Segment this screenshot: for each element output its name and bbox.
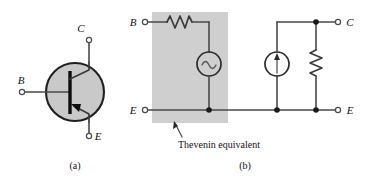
caption-b: (b) bbox=[239, 160, 251, 172]
shunt-resistor-zigzag bbox=[310, 50, 322, 76]
caption-a: (a) bbox=[69, 160, 80, 172]
node-dot-current-source-bottom bbox=[274, 107, 280, 113]
node-dot-source-bottom bbox=[206, 107, 212, 113]
panel-a-transistor-symbol: B C E (a) bbox=[18, 22, 104, 172]
current-source-arrowhead bbox=[274, 53, 280, 60]
thevenin-equivalent-annotation: Thevenin equivalent bbox=[178, 139, 260, 150]
node-dot-shunt-bottom bbox=[313, 107, 319, 113]
label-b-a: B bbox=[18, 74, 25, 86]
thevenin-shaded-region bbox=[152, 12, 228, 123]
annotation-leader-line bbox=[176, 125, 182, 137]
terminal-e-right-b[interactable] bbox=[335, 107, 340, 112]
label-e-left-b: E bbox=[129, 104, 137, 116]
terminal-e-left-b[interactable] bbox=[142, 107, 147, 112]
label-c-b: C bbox=[346, 16, 354, 28]
label-c-a: C bbox=[77, 22, 85, 34]
node-dot-collector bbox=[313, 19, 319, 25]
panel-b-equivalent-circuit: B E C E Thevenin equivalent (b) bbox=[129, 12, 355, 172]
terminal-b-a[interactable] bbox=[19, 89, 24, 94]
label-b-b: B bbox=[130, 16, 137, 28]
terminal-b-b[interactable] bbox=[142, 19, 147, 24]
label-e-a: E bbox=[94, 130, 102, 142]
figure-canvas: B C E (a) bbox=[0, 0, 369, 182]
label-e-right-b: E bbox=[346, 104, 354, 116]
terminal-c-a[interactable] bbox=[86, 37, 91, 42]
terminal-e-a[interactable] bbox=[86, 133, 91, 138]
figure-root: B C E (a) bbox=[0, 0, 369, 182]
terminal-c-b[interactable] bbox=[335, 19, 340, 24]
